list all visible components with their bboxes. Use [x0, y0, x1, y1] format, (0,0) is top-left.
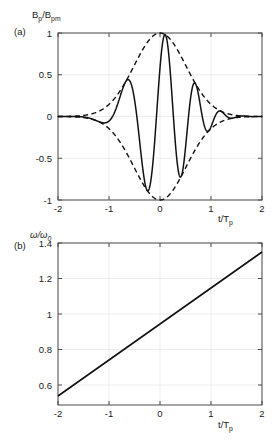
panel-a-ytick-3: -0.5 — [36, 153, 52, 164]
panel-a-ytick-4: -1 — [44, 195, 52, 206]
panel-b-xtick-0: -2 — [54, 408, 62, 419]
panel-a-tag: (a) — [14, 26, 26, 37]
panel-b-tag: (b) — [14, 240, 26, 251]
panel-b-xtick-labels: -2 -1 0 1 2 — [54, 408, 265, 419]
panel-a: Bp/Bpm (a) — [0, 0, 280, 222]
panel-a-xtick-0: -2 — [54, 203, 62, 214]
panel-b-ytick-0: 1.4 — [39, 238, 52, 249]
panel-a-ytick-2: 0 — [47, 111, 52, 122]
panel-b-xtick-3: 1 — [208, 408, 213, 419]
figure-root: Bp/Bpm (a) — [0, 0, 280, 442]
panel-b-ytick-2: 1 — [47, 309, 52, 320]
panel-b-xtick-2: 0 — [157, 408, 162, 419]
panel-a-gridlines — [58, 33, 262, 200]
panel-a-xtick-3: 1 — [208, 203, 213, 214]
panel-b-xtick-4: 2 — [259, 408, 264, 419]
panel-a-ytick-labels: 1 0.5 0 -0.5 -1 — [36, 28, 52, 206]
panel-a-xtick-4: 2 — [259, 203, 264, 214]
panel-b-ytick-1: 1.2 — [39, 273, 52, 284]
panel-a-ylabel: Bp/Bpm — [32, 9, 61, 23]
panel-a-xtick-1: -1 — [105, 203, 113, 214]
panel-b-ytick-labels: 1.4 1.2 1 0.8 0.6 — [39, 238, 52, 391]
panel-b-ytick-4: 0.6 — [39, 380, 52, 391]
panel-b-xtick-1: -1 — [105, 408, 113, 419]
panel-a-ytick-1: 0.5 — [39, 69, 52, 80]
panel-b-ytick-3: 0.8 — [39, 344, 52, 355]
panel-b-svg: ω/ω0 (b) — [0, 215, 280, 442]
panel-a-xtick-labels: -2 -1 0 1 2 — [54, 203, 265, 214]
panel-a-xtick-2: 0 — [157, 203, 162, 214]
panel-b-xlabel: t/Tp — [218, 419, 233, 433]
panel-b: ω/ω0 (b) — [0, 215, 280, 442]
panel-a-svg: Bp/Bpm (a) — [0, 0, 280, 222]
panel-a-ytick-0: 1 — [47, 28, 52, 39]
